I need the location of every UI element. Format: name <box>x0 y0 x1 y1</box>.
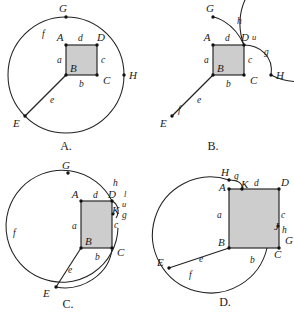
shaded-square-abcd <box>229 189 279 248</box>
label-arc-f: f <box>13 228 17 238</box>
label-point-d: D <box>240 31 249 43</box>
point-dot-h <box>122 73 125 76</box>
label-point-b: B <box>217 62 224 74</box>
point-dot-d <box>242 43 245 46</box>
label-side-d: d <box>254 178 259 188</box>
choice-label-d: D. <box>219 295 231 309</box>
label-side-c: c <box>101 55 106 65</box>
label-point-a: A <box>218 181 226 193</box>
label-point-h: H <box>220 166 230 178</box>
point-dot-c <box>110 246 113 249</box>
label-point-b: B <box>70 62 77 74</box>
label-point-b: B <box>85 235 92 247</box>
label-point-c: C <box>103 74 111 86</box>
point-dot-a <box>64 43 67 46</box>
point-dot-g <box>64 15 67 18</box>
choice-label-c: C. <box>62 297 73 311</box>
label-point-g: G <box>285 234 293 246</box>
label-point-a: A <box>203 31 211 43</box>
point-dot-g <box>211 15 214 18</box>
label-arc-h: h <box>237 16 242 26</box>
point-dot-c <box>95 73 98 76</box>
label-segment-e: e <box>199 254 203 264</box>
panel-c: G h l D u K g c A d a B C b e E f C. <box>0 156 147 312</box>
label-point-k: K <box>111 204 120 216</box>
label-side-d: d <box>93 190 98 200</box>
point-dot-h <box>227 178 230 181</box>
label-arc-g: g <box>264 47 269 57</box>
point-dot-a <box>79 199 82 202</box>
label-point-e: E <box>159 117 167 129</box>
label-segment-e: e <box>197 95 201 105</box>
point-dot-e <box>170 114 173 117</box>
label-side-d: d <box>225 33 230 43</box>
panel-a: G H E A D C B f d a c b e A. <box>0 0 147 156</box>
point-dot-g <box>66 171 69 174</box>
label-side-a: a <box>57 55 62 65</box>
label-point-h: H <box>275 69 285 81</box>
label-point-c: C <box>117 246 125 258</box>
choice-label-b: B. <box>207 139 218 153</box>
label-point-k: K <box>240 178 249 190</box>
label-side-a: a <box>72 221 77 231</box>
label-point-g: G <box>59 2 67 14</box>
label-segment-e: e <box>68 265 72 275</box>
label-arc-g: g <box>122 210 127 220</box>
label-point-d: D <box>96 31 105 43</box>
label-point-e: E <box>156 256 164 268</box>
panel-b: G H E A D C B h u g d a c b e f B. <box>147 0 294 156</box>
label-point-a: A <box>56 31 64 43</box>
label-segment-e: e <box>50 95 54 105</box>
point-dot-e <box>167 266 170 269</box>
label-point-g: G <box>62 159 70 171</box>
panel-d: H g K d D A a c J h G B b C e E f D. <box>147 156 294 312</box>
label-point-h: H <box>128 69 138 81</box>
label-point-d: D <box>280 176 289 188</box>
point-dot-d <box>95 43 98 46</box>
label-arc-l: l <box>124 189 127 199</box>
label-arc-u: u <box>252 32 256 42</box>
label-point-d: D <box>107 188 116 200</box>
point-dot-h <box>269 73 272 76</box>
label-point-a: A <box>71 188 79 200</box>
label-side-b: b <box>250 255 255 265</box>
label-point-b: B <box>218 236 225 248</box>
label-side-b: b <box>79 79 84 89</box>
label-side-b: b <box>95 252 100 262</box>
point-dot-b <box>64 73 67 76</box>
label-point-e: E <box>42 287 50 299</box>
label-point-c: C <box>274 248 282 260</box>
point-dot-c <box>242 73 245 76</box>
label-side-a: a <box>204 55 209 65</box>
label-point-g: G <box>206 2 214 14</box>
point-dot-a <box>227 187 230 190</box>
label-side-c: c <box>281 210 286 220</box>
point-dot-b <box>79 246 82 249</box>
label-point-e: E <box>12 117 20 129</box>
label-side-b: b <box>226 79 231 89</box>
radius-segment-e <box>25 75 66 116</box>
label-side-d: d <box>78 33 83 43</box>
label-arc-f: f <box>189 270 193 280</box>
label-arc-u: u <box>122 199 126 209</box>
label-arc-g: g <box>234 171 239 181</box>
point-dot-b <box>211 73 214 76</box>
figure-container: G H E A D C B f d a c b e A. <box>0 0 294 312</box>
label-side-a: a <box>217 210 222 220</box>
label-point-c: C <box>250 74 258 86</box>
point-dot-e <box>23 114 26 117</box>
label-arc-h: h <box>113 178 118 188</box>
label-arc-f: f <box>42 29 46 39</box>
label-side-c: c <box>248 55 253 65</box>
point-dot-a <box>211 43 214 46</box>
choice-label-a: A. <box>60 139 72 153</box>
point-dot-b <box>227 246 230 249</box>
point-dot-e <box>54 285 57 288</box>
